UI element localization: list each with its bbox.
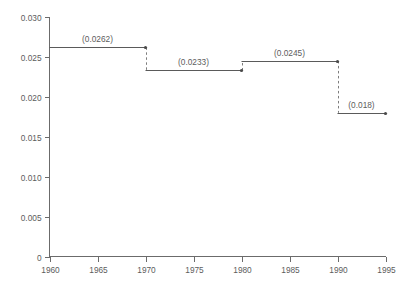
step-segments bbox=[50, 48, 386, 114]
step-value-label: (0.0233) bbox=[178, 57, 209, 67]
step-endpoint bbox=[336, 60, 339, 63]
y-tick-label: 0 bbox=[37, 253, 42, 263]
step-chart: 00.0050.0100.0150.0200.0250.030 19601965… bbox=[0, 0, 398, 289]
y-axis: 00.0050.0100.0150.0200.0250.030 bbox=[21, 13, 50, 263]
step-value-label: (0.0245) bbox=[274, 48, 305, 58]
y-tick-label: 0.005 bbox=[21, 213, 42, 223]
y-tick-label: 0.015 bbox=[21, 133, 42, 143]
y-tick-label: 0.020 bbox=[21, 93, 42, 103]
x-tick-label: 1960 bbox=[41, 265, 60, 275]
x-axis-ticks bbox=[51, 257, 387, 262]
y-tick-label: 0.010 bbox=[21, 173, 42, 183]
x-tick-label: 1995 bbox=[377, 265, 396, 275]
step-value-label: (0.0262) bbox=[82, 34, 113, 44]
x-tick-label: 1980 bbox=[233, 265, 252, 275]
step-endpoint bbox=[144, 46, 147, 49]
x-tick-label: 1975 bbox=[185, 265, 204, 275]
step-endpoint bbox=[384, 112, 387, 115]
x-axis: 19601965197019751980198519901995 bbox=[41, 257, 396, 275]
y-axis-tick-labels: 00.0050.0100.0150.0200.0250.030 bbox=[21, 13, 42, 263]
x-tick-label: 1965 bbox=[89, 265, 108, 275]
y-axis-ticks bbox=[45, 18, 50, 258]
y-tick-label: 0.030 bbox=[21, 13, 42, 23]
x-axis-tick-labels: 19601965197019751980198519901995 bbox=[41, 265, 396, 275]
step-value-label: (0.018) bbox=[348, 100, 375, 110]
chart-canvas: 00.0050.0100.0150.0200.0250.030 19601965… bbox=[0, 0, 398, 289]
y-tick-label: 0.025 bbox=[21, 53, 42, 63]
step-connectors bbox=[147, 47, 339, 112]
step-value-labels: (0.0262)(0.0233)(0.0245)(0.018) bbox=[82, 34, 375, 110]
x-tick-label: 1990 bbox=[329, 265, 348, 275]
step-endpoint bbox=[240, 69, 243, 72]
x-tick-label: 1970 bbox=[137, 265, 156, 275]
x-tick-label: 1985 bbox=[281, 265, 300, 275]
